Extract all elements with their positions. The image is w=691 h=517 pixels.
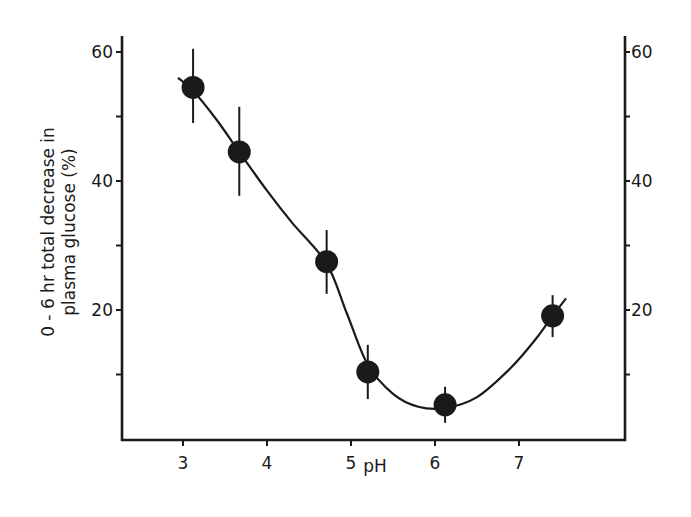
x-tick-label: 4 [262,453,273,473]
x-tick-label: 7 [514,453,525,473]
axis-ticks: 34567202040406060 [91,42,652,473]
y-axis-label-line-1: 0 - 6 hr total decrease in [38,127,58,337]
data-point [315,230,338,294]
data-marker [228,140,251,163]
data-marker [315,250,338,273]
axis-labels: pH 0 - 6 hr total decrease in plasma glu… [38,127,387,476]
data-point [182,49,205,123]
data-marker [434,393,457,416]
data-marker [356,360,379,383]
right-y-tick-label: 20 [631,300,653,320]
fitted-curve-path [178,78,566,409]
ph-glucose-chart: 34567202040406060 pH 0 - 6 hr total decr… [0,0,691,517]
left-y-tick-label: 60 [91,42,113,62]
fitted-curve [178,78,566,409]
data-marker [182,76,205,99]
left-y-tick-label: 20 [91,300,113,320]
data-marker [541,304,564,327]
y-axis-label-line-2: plasma glucose (%) [59,148,79,315]
x-tick-label: 3 [178,453,189,473]
right-y-tick-label: 60 [631,42,653,62]
data-point [434,387,457,423]
right-y-tick-label: 40 [631,171,653,191]
data-point [356,345,379,399]
x-axis-label: pH [363,456,387,476]
left-y-tick-label: 40 [91,171,113,191]
data-points [182,49,565,423]
x-tick-label: 6 [430,453,441,473]
x-tick-label: 5 [346,453,357,473]
data-point [228,107,251,196]
data-point [541,295,564,337]
